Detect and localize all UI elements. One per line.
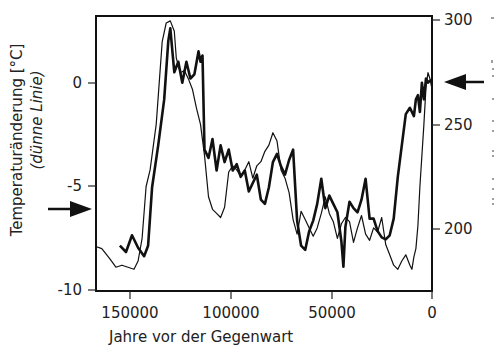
x-axis-title: Jahre vor der Gegenwart bbox=[108, 328, 293, 346]
x-axis: 150000 100000 50000 0 Jahre vor der Gege… bbox=[101, 291, 436, 346]
right-arrow-icon bbox=[444, 74, 484, 90]
scan-artifacts bbox=[491, 17, 494, 205]
left-tick-label: 0 bbox=[72, 74, 82, 92]
x-tick-label: 100000 bbox=[202, 304, 259, 322]
right-tick-label: 300 bbox=[444, 11, 473, 29]
y-axis-left-subtitle: (dünne Linie) bbox=[28, 70, 46, 169]
chart: 0 -5 -10 300 250 200 150000 100000 50000… bbox=[0, 0, 501, 347]
x-tick-label: 0 bbox=[427, 304, 437, 322]
y-axis-left-title: Temperaturänderung [°C] bbox=[8, 44, 26, 238]
left-tick-label: -5 bbox=[67, 177, 82, 195]
right-axis: 300 250 200 bbox=[432, 11, 473, 238]
left-axis: 0 -5 -10 bbox=[58, 74, 97, 299]
left-arrow-icon bbox=[48, 201, 92, 217]
right-tick-label: 250 bbox=[444, 116, 473, 134]
left-tick-label: -10 bbox=[58, 281, 83, 299]
right-tick-label: 200 bbox=[444, 220, 473, 238]
x-tick-label: 150000 bbox=[101, 304, 158, 322]
x-tick-label: 50000 bbox=[308, 304, 356, 322]
